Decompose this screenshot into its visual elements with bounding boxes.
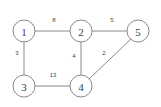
graph-diagram-canvas: 8534132 12345 [0, 0, 161, 107]
node-label-1: 1 [21, 26, 27, 38]
node-3[interactable]: 3 [13, 75, 35, 97]
edge-weight-2-5: 5 [110, 17, 114, 23]
node-5[interactable]: 5 [127, 20, 149, 42]
node-label-3: 3 [21, 81, 27, 93]
edge-weight-4-5: 2 [102, 50, 106, 56]
edge-weight-1-2: 8 [52, 17, 56, 23]
edge-weight-3-4: 13 [50, 72, 57, 78]
node-2[interactable]: 2 [70, 20, 92, 42]
edge-weight-2-4: 4 [72, 53, 76, 59]
node-label-4: 4 [78, 81, 84, 93]
graph-svg: 8534132 12345 [0, 0, 161, 107]
node-4[interactable]: 4 [70, 75, 92, 97]
node-label-2: 2 [78, 26, 84, 38]
edge-4-5 [89, 39, 131, 79]
node-label-5: 5 [135, 26, 141, 38]
edge-weight-1-3: 3 [15, 50, 19, 56]
node-1[interactable]: 1 [13, 20, 35, 42]
